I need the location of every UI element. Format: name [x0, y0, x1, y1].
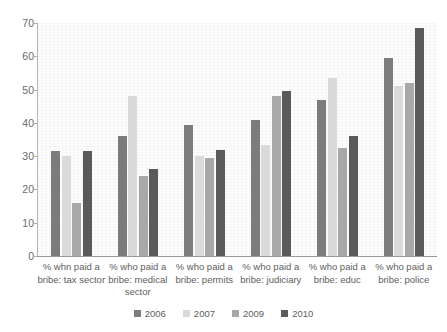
x-axis-category-label-line: bribe: educ [301, 274, 374, 287]
bar-group [304, 23, 371, 256]
bar-group [238, 23, 305, 256]
plot-area [38, 23, 437, 256]
bar [349, 136, 358, 256]
x-axis-category-label-line: % who paid a [368, 261, 441, 274]
bar [216, 150, 225, 257]
x-axis-category-label: % whn paid abribe: tax sector [35, 261, 108, 286]
bar [405, 83, 414, 256]
x-axis-category-label: % who paid abribe: judiciary [235, 261, 308, 286]
bar-group [38, 23, 105, 256]
bar [72, 203, 81, 256]
bar [62, 156, 71, 256]
y-axis-tick-label: 40 [4, 118, 34, 129]
bar [195, 156, 204, 256]
y-axis-tick-mark [33, 56, 37, 57]
bar [139, 176, 148, 256]
bar [184, 125, 193, 256]
x-axis-category-label: % who paid abribe: medicalsector [102, 261, 175, 299]
x-axis-category-label-line: bribe: police [368, 274, 441, 287]
bar [272, 96, 281, 256]
x-axis-category-label-line: bribe: judiciary [235, 274, 308, 287]
legend-label: 2007 [194, 309, 215, 319]
bar-group [371, 23, 438, 256]
chart-legend: 2006200720092010 [0, 309, 447, 319]
bar [261, 145, 270, 257]
x-axis-category-label-line: bribe: medical [102, 274, 175, 287]
y-axis-tick-mark [33, 90, 37, 91]
y-axis-tick-label: 70 [4, 18, 34, 29]
y-axis-tick-mark [33, 223, 37, 224]
x-axis-category-label-line: % who paid a [235, 261, 308, 274]
legend-label: 2006 [145, 309, 166, 319]
bar-group [105, 23, 172, 256]
bar [394, 86, 403, 256]
bar [83, 151, 92, 256]
x-axis-category-label: % who paid abribe: educ [301, 261, 374, 286]
x-axis-category-label-line: sector [102, 286, 175, 299]
legend-item[interactable]: 2007 [183, 309, 215, 319]
bar [51, 151, 60, 256]
legend-swatch-icon [134, 310, 141, 317]
legend-label: 2010 [292, 309, 313, 319]
y-axis-tick-mark [33, 189, 37, 190]
legend-swatch-icon [232, 310, 239, 317]
bar [149, 169, 158, 256]
x-axis-category-label-line: % whn paid a [35, 261, 108, 274]
x-axis-category-label-line: % who paid a [301, 261, 374, 274]
x-axis-line [33, 256, 437, 257]
bar [205, 158, 214, 256]
bar [128, 96, 137, 256]
bar [282, 91, 291, 256]
bar [415, 28, 424, 256]
legend-swatch-icon [183, 310, 190, 317]
y-axis-tick-label: 30 [4, 151, 34, 162]
y-axis-tick-mark [33, 256, 37, 257]
x-axis-category-label: % who paid abribe: permits [168, 261, 241, 286]
x-axis-category-label-line: bribe: tax sector [35, 274, 108, 287]
legend-swatch-icon [281, 310, 288, 317]
y-axis-tick-mark [33, 156, 37, 157]
legend-item[interactable]: 2010 [281, 309, 313, 319]
legend-item[interactable]: 2006 [134, 309, 166, 319]
y-axis-line [37, 23, 38, 257]
x-axis-category-label-line: % who paid a [168, 261, 241, 274]
x-axis-category-label: % who paid abribe: police [368, 261, 441, 286]
y-axis-tick-label: 50 [4, 84, 34, 95]
bar-chart: 010203040506070 % whn paid abribe: tax s… [0, 0, 447, 332]
x-axis-category-label-line: % who paid a [102, 261, 175, 274]
bar [317, 100, 326, 256]
bar-group [171, 23, 238, 256]
y-axis-tick-label: 0 [4, 251, 34, 262]
legend-label: 2009 [243, 309, 264, 319]
y-axis-tick-mark [33, 123, 37, 124]
bar [118, 136, 127, 256]
x-axis-category-label-line: bribe: permits [168, 274, 241, 287]
legend-item[interactable]: 2009 [232, 309, 264, 319]
bar [384, 58, 393, 256]
y-axis-tick-mark [33, 23, 37, 24]
y-axis-ticks: 010203040506070 [0, 0, 34, 332]
y-axis-tick-label: 20 [4, 184, 34, 195]
bar [251, 120, 260, 256]
bar [338, 148, 347, 256]
y-axis-tick-label: 60 [4, 51, 34, 62]
bar [328, 78, 337, 256]
y-axis-tick-label: 10 [4, 217, 34, 228]
